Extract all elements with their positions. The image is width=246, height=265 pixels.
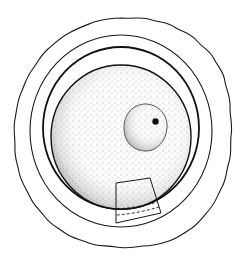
diagram-canvas [0, 0, 246, 265]
oocyte-diagram [0, 0, 246, 265]
nucleus [124, 104, 167, 151]
nucleolus [152, 118, 158, 124]
